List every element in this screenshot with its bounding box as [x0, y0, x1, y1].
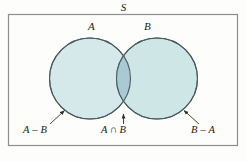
venn-diagram-canvas	[0, 0, 247, 162]
leader-line-b-minus-a	[184, 111, 199, 125]
leader-line-a-minus-b	[50, 111, 65, 125]
venn-diagram-figure: S A B A – B A∩B B – A	[0, 0, 247, 162]
b-minus-a-label: B – A	[191, 125, 215, 136]
a-intersect-b-right-operand: B	[119, 124, 126, 135]
universe-label: S	[0, 2, 247, 13]
a-intersect-b-left-operand: A	[101, 124, 108, 135]
set-a-label: A	[88, 21, 95, 32]
intersection-symbol-icon: ∩	[108, 124, 120, 135]
set-b-label: B	[144, 21, 151, 32]
a-intersect-b-label: A∩B	[101, 125, 126, 136]
a-minus-b-label: A – B	[23, 125, 47, 136]
